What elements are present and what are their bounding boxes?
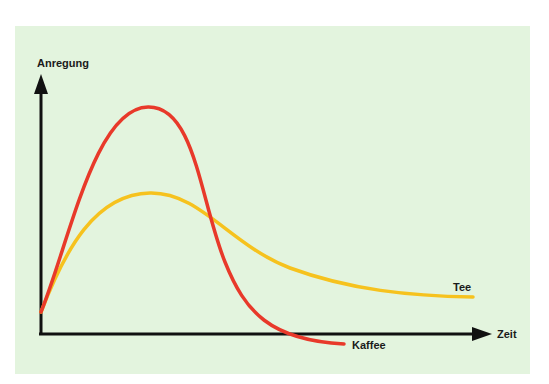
y-axis-label: Anregung [37, 57, 89, 69]
tea-line [41, 193, 473, 312]
y-axis-arrow-icon [34, 74, 48, 94]
tea-label: Tee [453, 281, 471, 293]
x-axis-arrow-icon [472, 327, 492, 341]
coffee-label: Kaffee [352, 339, 386, 351]
x-axis-label: Zeit [497, 328, 517, 340]
chart-svg: Anregung Zeit Kaffee Tee [0, 0, 549, 384]
